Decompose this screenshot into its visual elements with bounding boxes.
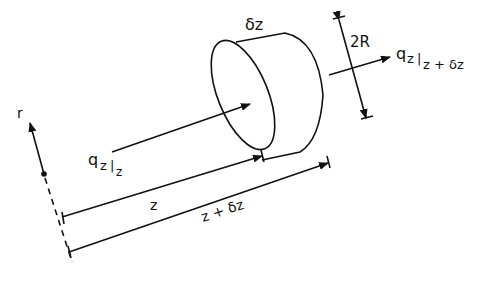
r-axis-arrow [30,123,44,174]
outflow-arrow [329,57,390,75]
label-delta-z: δz [245,15,263,34]
svg-text:z: z [100,158,107,173]
reference-dashed-line [45,178,72,262]
svg-text:q: q [88,150,98,169]
svg-text:|: | [110,158,114,173]
label-z: z [150,197,157,213]
svg-text:z: z [407,51,414,66]
label-q-out: q z | z + δz [396,44,464,72]
label-z-plus-dz: z + δz [199,196,246,225]
label-2R: 2R [350,33,370,51]
inflow-arrow [112,104,250,152]
label-r: r [17,105,23,121]
svg-text:z: z [116,165,122,179]
svg-text:z + δz: z + δz [423,57,464,72]
svg-text:|: | [417,51,421,66]
z-plus-dz-dimension [69,163,328,252]
cylinder-diagram: δz 2R r z z + δz q z | z q z | z + δz [0,0,487,285]
cylinder [198,32,323,160]
diagram-canvas: δz 2R r z z + δz q z | z q z | z + δz [0,0,487,285]
origin-dot [41,171,47,177]
svg-text:q: q [396,44,406,63]
label-q-in: q z | z [88,150,122,179]
